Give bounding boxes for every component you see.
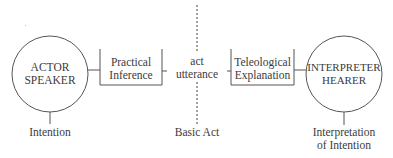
interpretation-text: Interpretation xyxy=(299,126,389,139)
inference-text: Inference xyxy=(100,69,162,82)
interpreter-text: INTERPRETER xyxy=(306,61,382,74)
of-intention-text: of Intention xyxy=(299,139,389,152)
stray-mark xyxy=(25,25,26,26)
intention-label: Intention xyxy=(10,126,90,139)
utterance-text: utterance xyxy=(167,68,227,81)
actor-speaker-label: ACTOR SPEAKER xyxy=(12,61,88,87)
hearer-text: HEARER xyxy=(306,74,382,87)
act-text: act xyxy=(189,55,204,68)
interpretation-of-intention-label: Interpretation of Intention xyxy=(299,126,389,152)
teleological-explanation-label: Teleological Explanation xyxy=(231,56,294,82)
speaker-text: SPEAKER xyxy=(12,74,88,87)
explanation-text: Explanation xyxy=(231,69,294,82)
practical-text: Practical xyxy=(100,56,162,69)
practical-inference-label: Practical Inference xyxy=(100,56,162,82)
interpreter-hearer-label: INTERPRETER HEARER xyxy=(306,61,382,87)
teleological-text: Teleological xyxy=(231,56,294,69)
act-utterance-label: act utterance xyxy=(167,55,227,81)
actor-text: ACTOR xyxy=(12,61,88,74)
basic-act-label: Basic Act xyxy=(157,126,237,139)
